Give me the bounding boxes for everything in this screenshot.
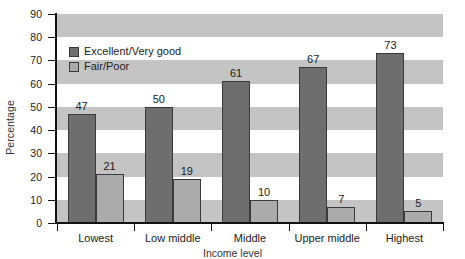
y-axis-tick xyxy=(48,130,55,131)
y-axis-tick-label: 50 xyxy=(18,102,42,112)
y-axis-tick-label: 10 xyxy=(18,195,42,205)
bar xyxy=(250,200,278,223)
y-axis-tick-label: 80 xyxy=(18,32,42,42)
bar-value-label: 47 xyxy=(62,100,102,112)
y-axis-tick-label: 40 xyxy=(18,125,42,135)
y-axis-tick-label: 70 xyxy=(18,55,42,65)
bar xyxy=(222,81,250,223)
x-axis-tick xyxy=(443,224,444,231)
y-axis-title: Percentage xyxy=(2,0,18,255)
bar-value-label: 7 xyxy=(321,193,361,205)
y-axis-tick xyxy=(48,107,55,108)
legend: Excellent/Very good Fair/Poor xyxy=(69,45,181,75)
background-band xyxy=(57,14,443,37)
bar xyxy=(327,207,355,223)
bar-value-label: 21 xyxy=(90,160,130,172)
bar xyxy=(96,174,124,223)
bar-value-label: 73 xyxy=(370,39,410,51)
x-axis-tick xyxy=(366,224,367,231)
y-axis-tick-label: 90 xyxy=(18,9,42,19)
x-axis-line xyxy=(55,222,444,224)
bar xyxy=(173,179,201,223)
y-axis-tick-label: 20 xyxy=(18,172,42,182)
bar-value-label: 10 xyxy=(244,186,284,198)
y-axis-tick xyxy=(48,37,55,38)
y-axis-tick-label: 60 xyxy=(18,79,42,89)
y-axis-tick xyxy=(48,177,55,178)
bar-value-label: 5 xyxy=(398,197,438,209)
x-axis-tick xyxy=(211,224,212,231)
legend-item-excellent: Excellent/Very good xyxy=(69,45,181,58)
x-axis-tick xyxy=(134,224,135,231)
legend-label: Fair/Poor xyxy=(84,60,129,73)
y-axis-tick xyxy=(48,84,55,85)
y-axis-line xyxy=(55,13,57,224)
y-axis-tick xyxy=(48,223,55,224)
bar-value-label: 50 xyxy=(139,93,179,105)
bar-value-label: 19 xyxy=(167,165,207,177)
x-axis-title: Income level xyxy=(0,236,465,259)
y-axis-tick xyxy=(48,200,55,201)
legend-label: Excellent/Very good xyxy=(84,45,181,58)
y-axis-tick xyxy=(48,14,55,15)
bar-value-label: 61 xyxy=(216,67,256,79)
x-axis-tick xyxy=(57,224,58,231)
legend-item-fairpoor: Fair/Poor xyxy=(69,60,181,73)
legend-swatch-icon xyxy=(69,62,79,72)
y-axis-tick xyxy=(48,60,55,61)
y-axis-tick xyxy=(48,153,55,154)
y-axis-tick-label: 30 xyxy=(18,148,42,158)
y-axis-tick-label: 0 xyxy=(18,218,42,228)
bar-value-label: 67 xyxy=(293,53,333,65)
legend-swatch-icon xyxy=(69,47,79,57)
x-axis-tick xyxy=(289,224,290,231)
